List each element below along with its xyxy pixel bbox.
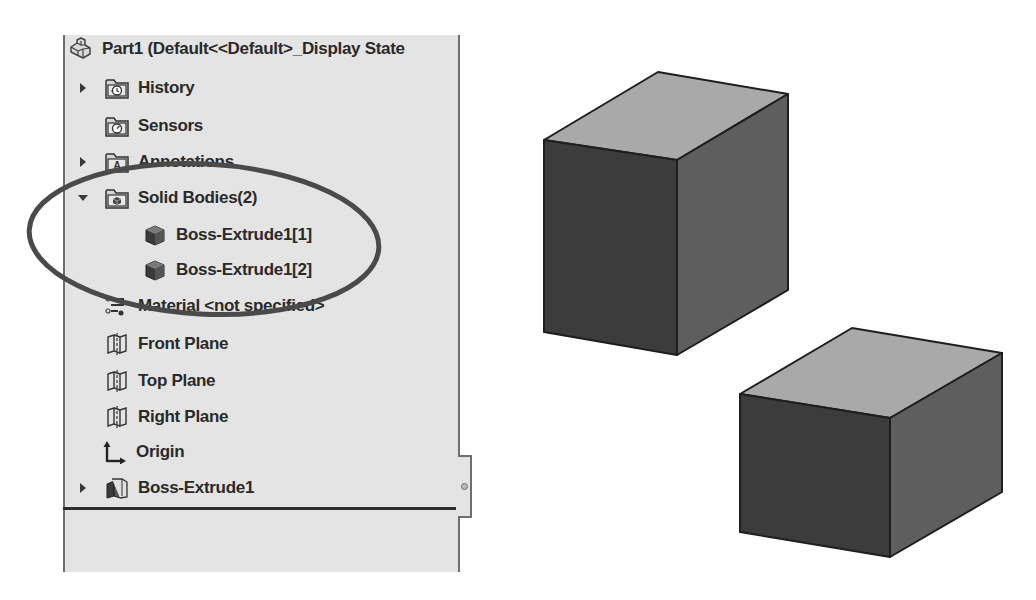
tree-item-label: Origin xyxy=(136,442,184,462)
plane-icon xyxy=(104,405,130,429)
tree-item-solid-body-1[interactable]: Boss-Extrude1[1] xyxy=(142,220,312,250)
tree-item-label: Annotations xyxy=(138,152,234,172)
tree-item-boss-extrude1[interactable]: Boss-Extrude1 xyxy=(80,473,254,503)
solid-body-icon xyxy=(142,258,168,282)
material-icon xyxy=(104,294,130,318)
svg-text:A: A xyxy=(114,160,121,171)
plane-icon xyxy=(104,332,130,356)
tree-item-label: Front Plane xyxy=(138,334,228,354)
tree-item-label: Sensors xyxy=(138,116,203,136)
annotations-folder-icon: A xyxy=(104,150,130,174)
tree-item-history[interactable]: History xyxy=(80,73,194,103)
tree-item-origin[interactable]: Origin xyxy=(80,437,184,467)
expand-arrow-icon[interactable] xyxy=(80,83,86,93)
tree-item-solid-body-2[interactable]: Boss-Extrude1[2] xyxy=(142,255,312,285)
plane-icon xyxy=(104,369,130,393)
tree-item-label: Material <not specified> xyxy=(138,296,324,316)
tree-root-label: Part1 (Default<<Default>_Display State xyxy=(102,39,405,59)
handle-dot-icon xyxy=(461,483,468,490)
collapse-arrow-icon[interactable] xyxy=(78,195,88,201)
expand-arrow-icon[interactable] xyxy=(80,483,86,493)
tree-item-front-plane[interactable]: Front Plane xyxy=(80,329,228,359)
tree-item-annotations[interactable]: A Annotations xyxy=(80,147,234,177)
solid-body-icon xyxy=(142,223,168,247)
sensors-folder-icon xyxy=(104,114,130,138)
tree-item-label: Boss-Extrude1[2] xyxy=(176,260,312,280)
tree-item-sensors[interactable]: Sensors xyxy=(80,111,203,141)
tree-item-top-plane[interactable]: Top Plane xyxy=(80,366,215,396)
tree-item-label: Right Plane xyxy=(138,407,228,427)
tree-item-label: Boss-Extrude1[1] xyxy=(176,225,312,245)
solid-body-1[interactable] xyxy=(544,72,788,355)
tree-item-material[interactable]: Material <not specified> xyxy=(80,291,324,321)
part-icon xyxy=(68,37,94,61)
solid-bodies-folder-icon xyxy=(104,186,130,210)
tree-item-solid-bodies[interactable]: Solid Bodies(2) xyxy=(78,183,257,213)
expand-arrow-icon[interactable] xyxy=(80,157,86,167)
tree-item-right-plane[interactable]: Right Plane xyxy=(80,402,228,432)
tree-item-label: Solid Bodies(2) xyxy=(138,188,257,208)
graphics-viewport[interactable] xyxy=(480,0,1036,600)
extrude-feature-icon xyxy=(104,476,130,500)
tree-root-part1[interactable]: Part1 (Default<<Default>_Display State xyxy=(68,34,405,64)
tree-item-label: Top Plane xyxy=(138,371,215,391)
tree-item-label: Boss-Extrude1 xyxy=(138,478,254,498)
solid-body-2[interactable] xyxy=(740,328,1002,557)
tree-item-label: History xyxy=(138,78,194,98)
panel-collapse-handle[interactable] xyxy=(458,455,472,518)
origin-icon xyxy=(102,440,128,464)
rollback-bar[interactable] xyxy=(63,507,456,510)
history-folder-icon xyxy=(104,76,130,100)
